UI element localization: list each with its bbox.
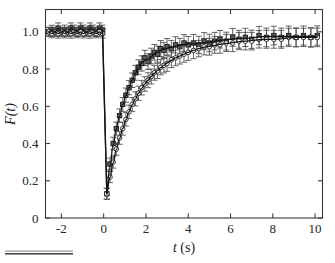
x-tick-label: 6 — [227, 221, 234, 236]
x-tick-label: -2 — [56, 221, 67, 236]
y-tick-label: 0.2 — [22, 173, 38, 188]
figure-container: -20246810 00.20.40.60.81.0 t (s) F(t) — [0, 0, 335, 263]
x-tick-label: 8 — [270, 221, 277, 236]
frap-recovery-chart: -20246810 00.20.40.60.81.0 t (s) F(t) — [0, 0, 335, 263]
scan-edge-rule — [5, 253, 73, 255]
x-tick-label: 10 — [309, 221, 322, 236]
y-tick-label: 1.0 — [22, 24, 38, 39]
x-axis-label: t (s) — [173, 240, 196, 256]
y-tick-label: 0.8 — [22, 62, 38, 77]
y-tick-label: 0.6 — [22, 99, 39, 114]
y-tick-label: 0.4 — [22, 136, 39, 151]
y-tick-label: 0 — [32, 211, 39, 226]
x-tick-label: 0 — [100, 221, 107, 236]
y-axis-label: F(t) — [3, 103, 19, 126]
x-tick-label: 2 — [143, 221, 150, 236]
scan-edge-rule-soft — [5, 251, 73, 252]
x-tick-label: 4 — [185, 221, 192, 236]
